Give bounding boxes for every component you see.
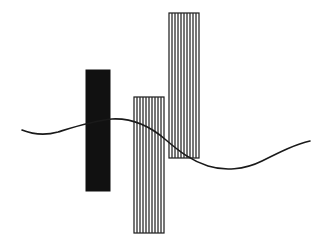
figure-svg <box>0 0 326 251</box>
bar-hatched-tall <box>169 13 199 158</box>
bar-hatched-middle <box>134 97 164 233</box>
bar-solid-black-rect <box>86 70 110 191</box>
bar-solid-black <box>86 70 110 191</box>
figure-canvas <box>0 0 326 251</box>
